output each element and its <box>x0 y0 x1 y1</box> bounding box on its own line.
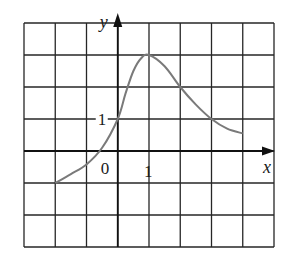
x-axis-label: x <box>262 157 271 177</box>
grid-lines <box>24 23 274 247</box>
function-graph: y x 0 1 1 <box>0 0 286 258</box>
x-axis-arrow-icon <box>262 147 275 156</box>
y-axis-arrow-icon <box>113 13 122 27</box>
origin-label: 0 <box>101 159 110 178</box>
x-tick-label-1: 1 <box>144 162 153 181</box>
y-axis-label: y <box>98 12 108 32</box>
y-tick-label-1: 1 <box>98 110 107 129</box>
